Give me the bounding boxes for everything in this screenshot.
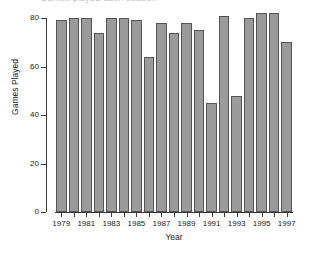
bar xyxy=(156,23,167,212)
x-tick-label: 1987 xyxy=(153,219,171,228)
x-tick-mark xyxy=(262,213,263,217)
bar xyxy=(244,18,255,212)
x-tick-label: 1985 xyxy=(128,219,146,228)
bar xyxy=(194,30,205,212)
x-tick-mark xyxy=(274,213,275,217)
y-tick: 40 xyxy=(41,115,46,116)
y-tick-mark xyxy=(41,115,46,116)
y-tick-label: 80 xyxy=(30,13,39,22)
x-tick-mark xyxy=(224,213,225,217)
x-tick-mark xyxy=(287,213,288,217)
bar xyxy=(269,13,280,212)
y-tick-label: 20 xyxy=(30,159,39,168)
x-tick-label: 1997 xyxy=(278,219,296,228)
y-tick-mark xyxy=(41,18,46,19)
bar xyxy=(206,103,217,212)
y-tick-label: 40 xyxy=(30,110,39,119)
x-tick-mark xyxy=(111,213,112,217)
y-axis-title: Games Played xyxy=(10,42,20,132)
x-tick-mark xyxy=(199,213,200,217)
bar xyxy=(131,20,142,212)
x-tick-mark xyxy=(212,213,213,217)
x-tick-label: 1993 xyxy=(228,219,246,228)
y-tick-label: 0 xyxy=(35,207,39,216)
x-tick-mark xyxy=(86,213,87,217)
bar xyxy=(231,96,242,212)
bar xyxy=(81,18,92,212)
chart-title: Games played each season xyxy=(40,0,270,5)
x-tick-mark xyxy=(174,213,175,217)
x-tick-mark xyxy=(249,213,250,217)
x-tick-mark xyxy=(187,213,188,217)
bar xyxy=(69,18,80,212)
x-tick-label: 1991 xyxy=(203,219,221,228)
bar xyxy=(119,18,130,212)
x-tick-mark xyxy=(136,213,137,217)
bar xyxy=(94,33,105,212)
bar xyxy=(181,23,192,212)
y-tick-mark xyxy=(41,67,46,68)
x-tick-label: 1983 xyxy=(102,219,120,228)
x-tick-mark xyxy=(161,213,162,217)
x-tick-mark xyxy=(74,213,75,217)
x-tick-mark xyxy=(149,213,150,217)
bar xyxy=(281,42,292,212)
x-tick-label: 1981 xyxy=(77,219,95,228)
y-tick-label: 60 xyxy=(30,62,39,71)
bar xyxy=(219,16,230,212)
x-tick-mark xyxy=(124,213,125,217)
y-tick-mark xyxy=(41,212,46,213)
x-tick-mark xyxy=(237,213,238,217)
x-tick-label: 1979 xyxy=(52,219,70,228)
bar xyxy=(56,20,67,212)
x-tick-mark xyxy=(99,213,100,217)
bar-series xyxy=(55,14,293,212)
y-tick-mark xyxy=(41,164,46,165)
bar xyxy=(169,33,180,212)
y-axis-line xyxy=(46,18,47,212)
x-tick-mark xyxy=(61,213,62,217)
x-tick-label: 1989 xyxy=(178,219,196,228)
y-tick: 0 xyxy=(41,212,46,213)
chart-figure: Games played each season Games Played Ye… xyxy=(0,0,312,255)
x-tick-label: 1995 xyxy=(253,219,271,228)
x-axis-title: Year xyxy=(55,232,293,242)
plot-area: 020406080 197919811983198519871989199119… xyxy=(55,14,293,212)
y-tick: 20 xyxy=(41,164,46,165)
y-tick: 60 xyxy=(41,67,46,68)
y-tick: 80 xyxy=(41,18,46,19)
bar xyxy=(144,57,155,212)
bar xyxy=(256,13,267,212)
bar xyxy=(106,18,117,212)
